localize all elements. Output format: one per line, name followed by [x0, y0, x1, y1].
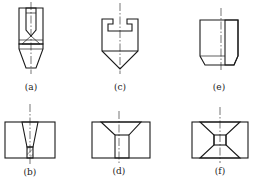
- figure-canvas: (a) (c) (e) (b): [0, 0, 253, 183]
- panel-f: (f): [192, 107, 248, 176]
- diagram-a: [19, 2, 43, 74]
- panel-e: (e): [200, 8, 238, 92]
- label-c: (c): [114, 82, 126, 92]
- panel-a: (a): [19, 2, 43, 92]
- label-e: (e): [213, 82, 225, 92]
- panel-c: (c): [102, 3, 138, 92]
- diagram-e: [200, 8, 238, 70]
- diagram-d: [92, 111, 150, 163]
- diagram-b: [5, 104, 55, 164]
- label-d: (d): [113, 166, 126, 176]
- diagram-f: [192, 107, 248, 163]
- label-a: (a): [25, 82, 37, 92]
- panel-d: (d): [92, 111, 150, 176]
- diagram-c: [102, 3, 138, 74]
- label-b: (b): [24, 167, 37, 177]
- label-f: (f): [215, 166, 225, 176]
- panel-b: (b): [5, 104, 55, 177]
